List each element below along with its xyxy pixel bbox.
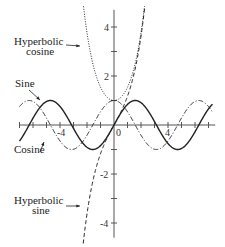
label-hyperbolic-sine: Hyperbolic sine	[14, 195, 63, 215]
x-tick-label: 4	[165, 127, 170, 138]
label-line: cosine	[14, 46, 63, 56]
label-cosine: Cosine	[14, 144, 45, 154]
label-line: sine	[14, 205, 63, 215]
label-sine: Sine	[15, 78, 35, 88]
y-tick-label: -4	[100, 218, 108, 229]
sinh-label-arrow-head	[76, 204, 80, 207]
x-tick-label: 0	[116, 127, 121, 138]
x-tick-label: -4	[57, 127, 65, 138]
y-tick-label: 4	[104, 22, 109, 33]
function-plot: -40442-2-4 Hyperbolic cosine Sine Cosine…	[0, 0, 225, 247]
label-hyperbolic-cosine: Hyperbolic cosine	[14, 36, 63, 56]
cosh-label-arrow-head	[76, 44, 80, 47]
y-tick-label: 2	[104, 71, 109, 82]
y-tick-label: -2	[100, 169, 108, 180]
